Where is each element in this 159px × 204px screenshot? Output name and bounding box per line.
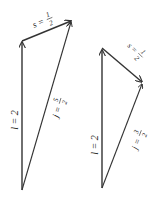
j-denominator: 2 (60, 99, 69, 105)
s-vector-arrow (22, 21, 71, 41)
l-label: l = 2 (9, 110, 20, 130)
s-vector-arrow (102, 48, 142, 82)
s-label: s = (126, 41, 140, 55)
l-label: l = 2 (89, 135, 100, 155)
j-numerator: 5 (52, 97, 61, 103)
left-diagram: l = 2 s = 1 2 j = 5 2 (9, 10, 71, 190)
j-denominator: 2 (141, 132, 150, 139)
j-label: j = (50, 105, 63, 119)
j-label: j = (129, 137, 143, 152)
s-denominator: 2 (48, 19, 55, 28)
vector-coupling-diagrams: l = 2 s = 1 2 j = 5 2 l = 2 s = 1 2 j = … (0, 0, 159, 204)
j-vector-arrow (102, 84, 142, 188)
right-diagram: l = 2 s = 1 2 j = 3 2 (89, 38, 150, 188)
s-numerator: 1 (45, 10, 51, 19)
j-vector-arrow (22, 22, 71, 190)
s-denominator: 2 (133, 54, 141, 62)
s-label: s = (31, 16, 46, 30)
